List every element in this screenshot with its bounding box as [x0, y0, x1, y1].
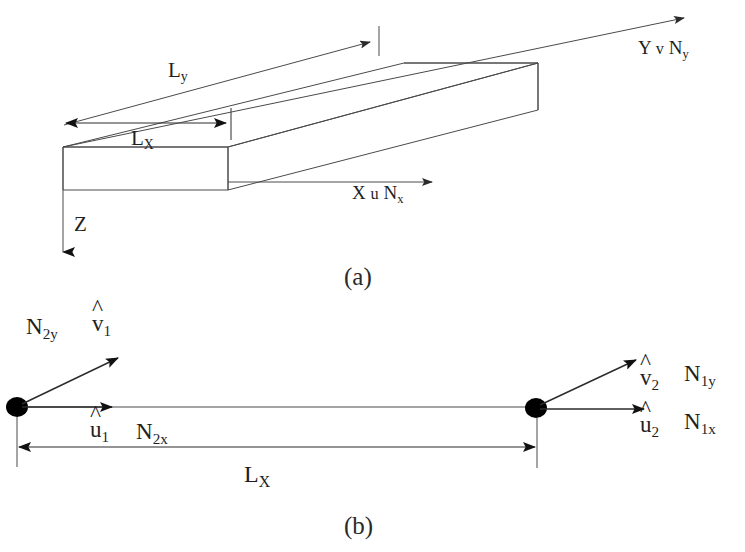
label-length-x-panel-b-subscript: X [259, 473, 270, 490]
axis-x-force: N [383, 182, 397, 203]
axis-y-displacement: v [656, 39, 664, 58]
label-displacement-v1-subscript: 1 [104, 322, 112, 339]
label-force-n1x: N1x [684, 410, 716, 436]
label-displacement-u2: ^u2 [640, 413, 659, 439]
label-length-x-panel-a: LX [131, 128, 154, 152]
hat-accent-icon: ^ [640, 397, 651, 420]
axis-x-label: X u Nx [352, 183, 403, 206]
axis-y-arrow [63, 18, 684, 147]
hat-accent-icon: ^ [90, 402, 101, 425]
plate-front-face [63, 147, 228, 190]
label-length-x-subscript: X [144, 137, 154, 152]
label-displacement-v2-subscript: 2 [652, 376, 660, 393]
label-length-y: Ly [168, 60, 188, 84]
axis-y-force: N [669, 37, 683, 58]
label-displacement-u1-subscript: 1 [102, 428, 110, 445]
axis-y-force-subscript: y [682, 47, 688, 61]
label-length-y-subscript: y [181, 69, 188, 84]
label-force-n2x-symbol: N [136, 419, 153, 444]
label-force-n1y-subscript: 1y [701, 372, 716, 389]
axis-y-label: Y v Ny [638, 38, 689, 61]
axis-x-displacement: u [370, 184, 378, 203]
label-force-n1y: N1y [684, 362, 716, 388]
label-displacement-u1: ^u1 [90, 418, 109, 444]
hat-accent-icon: ^ [92, 296, 103, 319]
hat-accent-icon: ^ [640, 350, 651, 373]
label-force-n2x: N2x [136, 420, 168, 446]
label-length-y-symbol: L [168, 58, 181, 82]
figure-vector-layer [0, 0, 745, 552]
panel-b-element [6, 358, 644, 468]
label-force-n1x-subscript: 1x [701, 420, 716, 437]
label-displacement-v1-symbol-group: ^v [92, 312, 104, 335]
label-force-n2x-subscript: 2x [153, 430, 168, 447]
label-force-n1x-symbol: N [684, 409, 701, 434]
label-force-n2y: N2y [26, 315, 58, 341]
plate-side-face [228, 63, 538, 190]
label-length-x-symbol: L [131, 126, 144, 150]
label-force-n2y-symbol: N [26, 314, 43, 339]
dimension-ly [64, 26, 379, 125]
caption-panel-a: (a) [344, 263, 372, 291]
label-length-x-panel-b: LX [244, 462, 270, 490]
label-displacement-v2: ^v2 [640, 366, 659, 392]
node-2-marker [525, 398, 547, 418]
axis-x-force-subscript: x [397, 192, 403, 206]
label-force-n1y-symbol: N [684, 361, 701, 386]
label-displacement-u2-symbol-group: ^u [640, 413, 652, 436]
label-displacement-u2-subscript: 2 [652, 423, 660, 440]
caption-panel-b: (b) [344, 512, 373, 540]
label-displacement-v2-symbol-group: ^v [640, 366, 652, 389]
node-1-v-vector [22, 358, 118, 404]
label-length-x-panel-b-symbol: L [244, 461, 259, 487]
axis-x-letter: X [352, 182, 366, 203]
dimension-ly-line [64, 42, 370, 125]
node-2-v-vector [540, 360, 636, 405]
axis-z-label: Z [74, 214, 87, 235]
axis-z-letter: Z [74, 212, 87, 236]
label-force-n2y-subscript: 2y [43, 325, 58, 342]
label-displacement-v1: ^v1 [92, 312, 111, 338]
label-displacement-u1-symbol-group: ^u [90, 418, 102, 441]
figure-root: Ly LX X u Nx Y v Ny Z (a) N2y ^v1 ^u1 N2… [0, 0, 745, 552]
axis-y-letter: Y [638, 37, 651, 58]
